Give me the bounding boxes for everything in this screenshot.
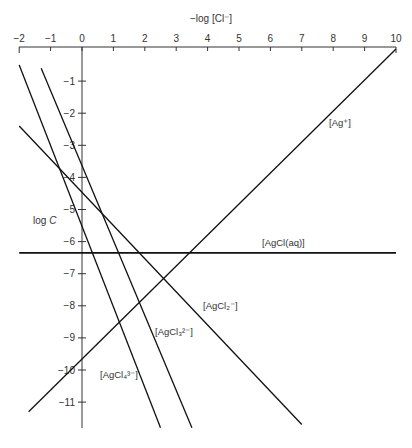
x-axis: −2−1012345678910 −log [Cl⁻] (13, 13, 402, 53)
x-tick-label: 6 (268, 33, 274, 44)
x-tick-label: 1 (111, 33, 117, 44)
y-tick-label: −8 (64, 300, 76, 311)
y-tick-label: −7 (64, 268, 76, 279)
x-tick-label: 4 (205, 33, 211, 44)
x-axis-title: −log [Cl⁻] (190, 13, 232, 24)
x-tick-label: 0 (79, 33, 85, 44)
y-axis: −1−2−3−4−5−6−7−8−9−10−11 log C (33, 47, 86, 428)
y-axis-title: log C (33, 215, 57, 226)
log-concentration-chart: −2−1012345678910 −log [Cl⁻] −1−2−3−4−5−6… (0, 0, 412, 448)
x-tick-label: 10 (390, 33, 402, 44)
x-tick-label: −1 (45, 33, 57, 44)
x-tick-label: 3 (173, 33, 179, 44)
x-tick-label: 8 (330, 33, 336, 44)
y-tick-label: −2 (64, 108, 76, 119)
x-tick-label: 5 (236, 33, 242, 44)
series-lines (19, 49, 396, 428)
x-tick-label: 2 (142, 33, 148, 44)
x-tick-label: 9 (362, 33, 368, 44)
label-agcl3: [AgCl₃²⁻] (155, 326, 193, 337)
y-tick-label: −6 (64, 236, 76, 247)
label-agcl4: [AgCl₄³⁻] (100, 369, 138, 380)
label-agcl-aq: [AgCl(aq)] (262, 237, 305, 248)
y-tick-label: −4 (64, 172, 76, 183)
y-tick-label: −9 (64, 332, 76, 343)
label-agcl2: [AgCl₂⁻] (203, 300, 238, 311)
series-line (19, 65, 160, 428)
x-tick-label: 7 (299, 33, 305, 44)
y-tick-label: −11 (59, 397, 76, 408)
label-ag: [Ag⁺] (329, 117, 351, 128)
x-tick-label: −2 (13, 33, 25, 44)
y-tick-label: −1 (64, 76, 76, 87)
